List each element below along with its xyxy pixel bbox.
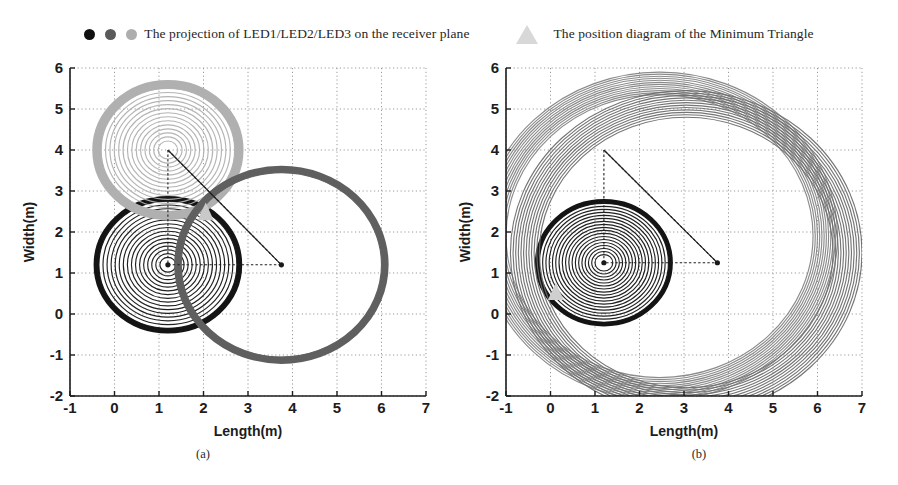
led2-dot-icon bbox=[105, 29, 116, 40]
y-axis-tick-label: 5 bbox=[55, 100, 63, 117]
triangle-vertex-marker bbox=[165, 262, 170, 267]
x-axis-tick-label: 0 bbox=[110, 399, 118, 416]
x-axis-tick-label: 5 bbox=[333, 399, 341, 416]
x-axis-tick-label: 6 bbox=[377, 399, 385, 416]
x-axis-tick-label: 4 bbox=[724, 399, 733, 416]
legend-entry-minimum-triangle: The position diagram of the Minimum Tria… bbox=[516, 25, 814, 44]
y-axis-tick-label: -2 bbox=[486, 387, 499, 404]
led3-dot-icon bbox=[126, 29, 137, 40]
y-axis-tick-label: 3 bbox=[491, 182, 499, 199]
x-axis-tick-label: 2 bbox=[199, 399, 207, 416]
x-axis-tick-label: 5 bbox=[769, 399, 777, 416]
subplot-b: -101234567-2-10123456Length(m)Width(m) (… bbox=[448, 58, 878, 458]
x-axis-tick-label: 4 bbox=[288, 399, 297, 416]
x-axis-tick-label: 3 bbox=[680, 399, 688, 416]
legend-label-minimum-triangle: The position diagram of the Minimum Tria… bbox=[554, 26, 814, 42]
y-axis-tick-label: 0 bbox=[55, 305, 63, 322]
x-axis-title: Length(m) bbox=[650, 423, 718, 439]
triangle-vertex-marker bbox=[715, 260, 720, 265]
y-axis-tick-label: -2 bbox=[50, 387, 63, 404]
y-axis-title: Width(m) bbox=[457, 202, 473, 263]
contour-ring bbox=[539, 117, 833, 388]
contour-ring bbox=[513, 93, 859, 412]
y-axis-tick-label: 3 bbox=[55, 182, 63, 199]
y-axis-tick-label: -1 bbox=[50, 346, 63, 363]
x-axis-tick-label: 1 bbox=[155, 399, 163, 416]
minimum-triangle-marker-icon bbox=[516, 25, 538, 44]
data-layer bbox=[482, 72, 862, 414]
x-axis-tick-label: 3 bbox=[244, 399, 252, 416]
y-axis-tick-label: 2 bbox=[55, 223, 63, 240]
y-axis-tick-label: 2 bbox=[491, 223, 499, 240]
plot-b-canvas: -101234567-2-10123456Length(m)Width(m) bbox=[448, 58, 878, 458]
x-axis-tick-label: 2 bbox=[635, 399, 643, 416]
y-axis-tick-label: 6 bbox=[55, 59, 63, 76]
y-axis-tick-label: 4 bbox=[55, 141, 64, 158]
triangle-vertex-marker bbox=[601, 260, 606, 265]
figure-legend: The projection of LED1/LED2/LED3 on the … bbox=[0, 18, 898, 50]
subplot-a-caption: (a) bbox=[0, 447, 418, 462]
y-axis-title: Width(m) bbox=[21, 202, 37, 263]
y-axis-tick-label: 1 bbox=[491, 264, 499, 281]
y-axis-tick-label: -1 bbox=[486, 346, 499, 363]
triangle-vertex-marker bbox=[279, 262, 284, 267]
x-axis-tick-label: 0 bbox=[546, 399, 554, 416]
legend-dot-group bbox=[84, 29, 137, 40]
x-axis-title: Length(m) bbox=[214, 423, 282, 439]
y-axis-tick-label: 6 bbox=[491, 59, 499, 76]
led1-dot-icon bbox=[84, 29, 95, 40]
y-axis-tick-label: 5 bbox=[491, 100, 499, 117]
x-axis-tick-label: -1 bbox=[63, 399, 76, 416]
x-axis-tick-label: 7 bbox=[422, 399, 430, 416]
y-axis-tick-label: 1 bbox=[55, 264, 63, 281]
plot-a-canvas: -101234567-2-10123456Length(m)Width(m) bbox=[12, 58, 442, 458]
y-axis-tick-label: 4 bbox=[491, 141, 500, 158]
x-axis-tick-label: 7 bbox=[858, 399, 866, 416]
legend-entry-led-projections: The projection of LED1/LED2/LED3 on the … bbox=[84, 26, 469, 42]
x-axis-tick-label: 6 bbox=[813, 399, 821, 416]
data-layer bbox=[96, 84, 385, 360]
x-axis-tick-label: -1 bbox=[499, 399, 512, 416]
subplot-b-caption: (b) bbox=[484, 447, 898, 462]
y-axis-tick-label: 0 bbox=[491, 305, 499, 322]
x-axis-tick-label: 1 bbox=[591, 399, 599, 416]
subplot-a: -101234567-2-10123456Length(m)Width(m) (… bbox=[12, 58, 442, 458]
legend-label-led-projections: The projection of LED1/LED2/LED3 on the … bbox=[144, 26, 469, 42]
